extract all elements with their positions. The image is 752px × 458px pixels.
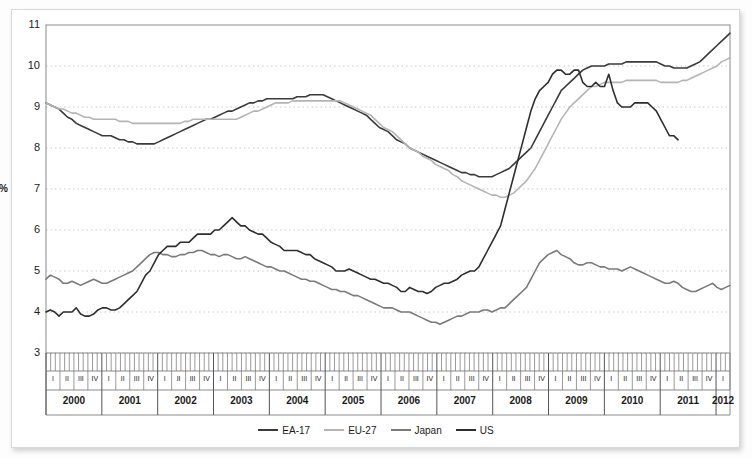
legend-label: US — [480, 425, 494, 436]
x-axis-year-label: 2005 — [331, 395, 375, 406]
legend-item: EA-17 — [258, 424, 310, 436]
chart-legend: EA-17EU-27JapanUS — [0, 424, 752, 436]
x-axis-year-label: 2012 — [701, 395, 745, 406]
x-axis-year-label: 2008 — [499, 395, 543, 406]
legend-swatch — [324, 429, 344, 431]
x-axis-year-label: 2001 — [108, 395, 152, 406]
y-axis-tick-label: 5 — [14, 264, 40, 276]
chart-figure: 34567891011%IIIIIIIVIIIIIIIVIIIIIIIVIIII… — [0, 0, 752, 458]
y-axis-tick-label: 10 — [14, 59, 40, 71]
series-line-eu-27 — [46, 58, 730, 197]
y-axis-tick-label: 9 — [14, 100, 40, 112]
y-axis-tick-label: 8 — [14, 141, 40, 153]
x-axis-year-label: 2004 — [275, 395, 319, 406]
chart-card: 34567891011%IIIIIIIVIIIIIIIVIIIIIIIVIIII… — [11, 9, 740, 448]
legend-label: Japan — [415, 425, 442, 436]
legend-swatch — [456, 429, 476, 431]
legend-item: Japan — [391, 424, 442, 436]
x-axis-year-label: 2006 — [387, 395, 431, 406]
x-axis-year-label: 2009 — [554, 395, 598, 406]
x-axis-year-label: 2010 — [610, 395, 654, 406]
x-axis-year-label: 2002 — [164, 395, 208, 406]
x-axis-year-label: 2007 — [443, 395, 487, 406]
legend-swatch — [391, 429, 411, 431]
legend-item: US — [456, 424, 494, 436]
legend-label: EA-17 — [282, 425, 310, 436]
x-axis-year-label: 2000 — [52, 395, 96, 406]
series-line-japan — [46, 251, 730, 325]
y-axis-tick-label: 11 — [14, 18, 40, 30]
x-axis-quarter-label: I — [713, 375, 733, 382]
legend-label: EU-27 — [348, 425, 376, 436]
y-axis-tick-label: 4 — [14, 305, 40, 317]
y-axis-tick-label: 7 — [14, 182, 40, 194]
y-axis-tick-label: 6 — [14, 223, 40, 235]
legend-swatch — [258, 429, 278, 431]
legend-item: EU-27 — [324, 424, 376, 436]
y-axis-unit-label: % — [0, 183, 8, 194]
series-line-ea-17 — [46, 33, 730, 177]
y-axis-tick-label: 3 — [14, 346, 40, 358]
x-axis-year-label: 2003 — [219, 395, 263, 406]
